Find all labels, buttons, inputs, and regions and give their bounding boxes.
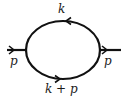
- vertex-left: [25, 49, 27, 51]
- vertex-right: [99, 49, 101, 51]
- label-external-left: p: [10, 55, 18, 67]
- label-internal-top: k: [58, 3, 65, 15]
- label-external-right: p: [104, 55, 112, 67]
- loop-propagator: [26, 21, 100, 79]
- label-internal-bottom: k + p: [45, 83, 78, 95]
